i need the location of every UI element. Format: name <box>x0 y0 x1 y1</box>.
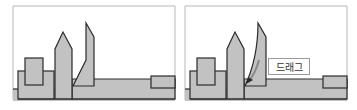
panel-after <box>185 6 347 101</box>
inner-block <box>25 58 43 85</box>
tower <box>55 32 72 99</box>
right-block <box>151 76 175 88</box>
right-block <box>323 76 347 88</box>
inner-block <box>197 58 215 85</box>
diagram-canvas <box>0 0 357 110</box>
curved-leaf <box>245 23 266 86</box>
leaning-piece <box>73 23 94 86</box>
panel-before <box>13 6 175 101</box>
tower <box>227 32 244 99</box>
drag-label: 드래그 <box>268 58 310 75</box>
